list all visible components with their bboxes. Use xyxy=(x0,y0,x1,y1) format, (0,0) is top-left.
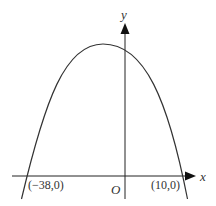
left-root-label: (−38,0) xyxy=(28,178,64,192)
right-root-label: (10,0) xyxy=(151,178,180,192)
x-axis-label: x xyxy=(199,169,206,184)
origin-label: O xyxy=(111,182,121,197)
y-axis-arrow-icon xyxy=(121,23,130,34)
parabola-diagram: y x O (−38,0) (10,0) xyxy=(0,0,216,206)
x-axis-arrow-icon xyxy=(185,172,196,181)
y-axis-label: y xyxy=(119,7,127,22)
